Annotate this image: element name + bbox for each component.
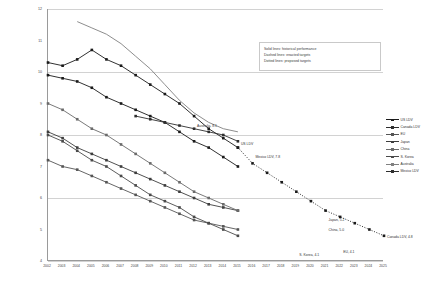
- data-point-marker: [222, 203, 225, 206]
- data-point-marker: [222, 137, 225, 140]
- data-point-marker: [178, 206, 181, 209]
- data-point-marker: [120, 102, 123, 105]
- data-point-marker: [207, 197, 210, 200]
- data-point-marker: [164, 172, 167, 175]
- data-point-marker: [91, 175, 94, 178]
- data-point-marker: [91, 127, 94, 130]
- legend-item[interactable]: China: [386, 146, 443, 153]
- data-point-marker: [237, 165, 240, 168]
- data-point-marker: [178, 131, 181, 134]
- data-point-label: EU, 4.1: [343, 250, 354, 254]
- data-point-marker: [237, 228, 240, 231]
- data-point-marker: [178, 102, 181, 105]
- data-point-marker: [164, 121, 167, 124]
- data-point-marker: [105, 159, 108, 162]
- note-line-dotted: Dotted lines: proposed targets: [264, 58, 376, 64]
- data-point-marker: [207, 222, 210, 225]
- y-tick-label: 6: [16, 196, 42, 200]
- data-point-marker: [47, 159, 50, 162]
- legend-label: Australia: [401, 162, 414, 166]
- y-tick-label: 12: [16, 7, 42, 11]
- y-tick-label: 8: [16, 133, 42, 137]
- legend-label: China: [401, 147, 410, 151]
- data-point-marker: [76, 149, 79, 152]
- data-point-marker: [76, 118, 79, 121]
- legend-item[interactable]: Canada LDV: [386, 123, 443, 130]
- data-point-marker: [91, 159, 94, 162]
- data-point-marker: [105, 181, 108, 184]
- data-point-marker: [105, 165, 108, 168]
- data-point-marker: [178, 212, 181, 215]
- data-point-marker: [164, 206, 167, 209]
- legend-item[interactable]: US LDV: [386, 116, 443, 123]
- data-point-marker: [76, 80, 79, 83]
- data-point-marker: [47, 134, 50, 137]
- legend-label: Canada LDV: [401, 125, 420, 129]
- legend-color-swatch: [386, 119, 399, 120]
- data-point-marker: [149, 115, 152, 118]
- data-point-marker: [149, 83, 152, 86]
- data-point-marker: [164, 200, 167, 203]
- data-point-marker: [295, 190, 298, 193]
- data-point-label: Japan, 5.2: [329, 218, 345, 222]
- data-point-marker: [193, 219, 196, 222]
- data-point-marker: [120, 165, 123, 168]
- data-point-marker: [178, 181, 181, 184]
- legend-color-swatch: [386, 141, 399, 142]
- data-point-marker: [237, 209, 240, 212]
- chart-legend: US LDVCanada LDVEUJapanChinaS. KoreaAust…: [386, 116, 443, 175]
- data-point-marker: [222, 156, 225, 159]
- data-point-marker: [193, 216, 196, 219]
- data-point-marker: [105, 96, 108, 99]
- legend-color-swatch: [386, 134, 399, 135]
- y-tick-label: 5: [16, 228, 42, 232]
- data-point-marker: [193, 190, 196, 193]
- data-point-marker: [324, 209, 327, 212]
- data-point-marker: [91, 86, 94, 89]
- data-point-marker: [178, 124, 181, 127]
- x-tick-label: 2025: [372, 264, 394, 268]
- y-tick-label: 4: [16, 259, 42, 263]
- data-point-marker: [120, 175, 123, 178]
- data-point-marker: [47, 131, 50, 134]
- data-point-marker: [47, 61, 50, 64]
- data-point-marker: [222, 225, 225, 228]
- legend-item[interactable]: Mexico LDV: [386, 168, 443, 175]
- data-point-label: Canada LDV, 4.8: [387, 235, 413, 239]
- data-point-marker: [207, 203, 210, 206]
- data-point-marker: [134, 184, 137, 187]
- series-line: [77, 22, 238, 132]
- data-point-marker: [149, 162, 152, 165]
- data-point-marker: [134, 109, 137, 112]
- legend-color-swatch: [386, 127, 399, 128]
- data-point-label: US LDV: [241, 142, 253, 146]
- data-point-marker: [91, 153, 94, 156]
- legend-label: Mexico LDV: [401, 169, 419, 173]
- legend-item[interactable]: Japan: [386, 138, 443, 145]
- data-point-marker: [61, 77, 64, 80]
- data-point-marker: [134, 194, 137, 197]
- data-point-marker: [193, 127, 196, 130]
- legend-item[interactable]: Australia: [386, 160, 443, 167]
- data-point-marker: [207, 131, 210, 134]
- y-tick-label: 7: [16, 165, 42, 169]
- legend-color-swatch: [386, 164, 399, 165]
- legend-item[interactable]: EU: [386, 131, 443, 138]
- data-point-label: Australia, 8.1: [197, 124, 217, 128]
- data-point-marker: [120, 64, 123, 67]
- data-point-marker: [149, 194, 152, 197]
- data-point-marker: [280, 181, 283, 184]
- data-point-marker: [193, 115, 196, 118]
- data-point-label: China, 5.0: [329, 228, 344, 232]
- legend-item[interactable]: S. Korea: [386, 153, 443, 160]
- data-point-marker: [61, 165, 64, 168]
- legend-color-swatch: [386, 156, 399, 157]
- data-point-marker: [76, 168, 79, 171]
- series-line: [48, 75, 238, 166]
- data-point-label: Mexico LDV, 7.8: [256, 155, 281, 159]
- data-point-marker: [237, 140, 240, 143]
- data-point-marker: [61, 137, 64, 140]
- data-point-marker: [91, 49, 94, 52]
- data-point-marker: [193, 140, 196, 143]
- data-point-marker: [47, 74, 50, 77]
